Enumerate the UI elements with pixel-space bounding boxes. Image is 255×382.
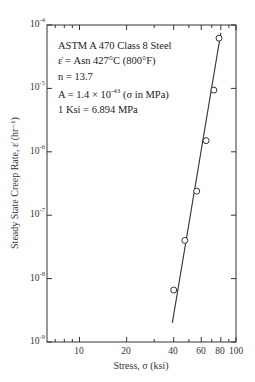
y-tick-label: 10-4: [30, 17, 45, 29]
annotation-material: ASTM A 470 Class 8 Steel: [58, 38, 171, 53]
data-series: [171, 33, 222, 323]
annotation-exponent: n = 13.7: [58, 69, 171, 84]
fit-line: [172, 33, 220, 323]
y-tick-label: 10-6: [30, 144, 45, 156]
annotation-constant: A = 1.4 × 10-43 (σ in MPa): [58, 84, 171, 102]
x-tick-label: 20: [121, 346, 131, 356]
x-tick-label: 100: [229, 346, 243, 356]
annotation-equation: ε̇ = Asn 427°C (800°F): [58, 53, 171, 68]
x-tick-label: 60: [196, 346, 206, 356]
data-point: [211, 87, 217, 93]
annotation-box: ASTM A 470 Class 8 Steel ε̇ = Asn 427°C …: [58, 38, 171, 118]
data-point: [216, 35, 222, 41]
x-axis-title: Stress, σ (ksi): [113, 360, 168, 371]
x-tick-label: 40: [168, 346, 178, 356]
y-tick-label: 10-7: [30, 207, 45, 219]
y-tick-label: 10-5: [30, 80, 45, 92]
x-tick-label: 10: [74, 346, 84, 356]
annotation-conversion: 1 Ksi = 6.894 MPa: [58, 102, 171, 117]
data-point: [203, 138, 209, 144]
data-point: [171, 287, 177, 293]
y-axis-title: Steady State Creep Rate, ε̇ (hr⁻¹): [9, 117, 20, 249]
y-tick-label: 10-9: [30, 334, 45, 346]
data-point: [182, 237, 188, 243]
y-tick-label: 10-8: [30, 271, 45, 283]
data-point: [194, 188, 200, 194]
x-tick-label: 80: [215, 346, 225, 356]
